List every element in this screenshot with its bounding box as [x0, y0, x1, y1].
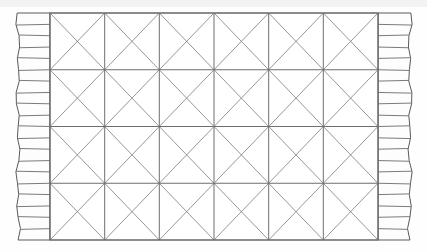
left-fringe [16, 13, 50, 240]
rug-diagram-canvas [0, 0, 427, 252]
right-fringe [378, 13, 412, 240]
rug-drawing [0, 0, 427, 252]
